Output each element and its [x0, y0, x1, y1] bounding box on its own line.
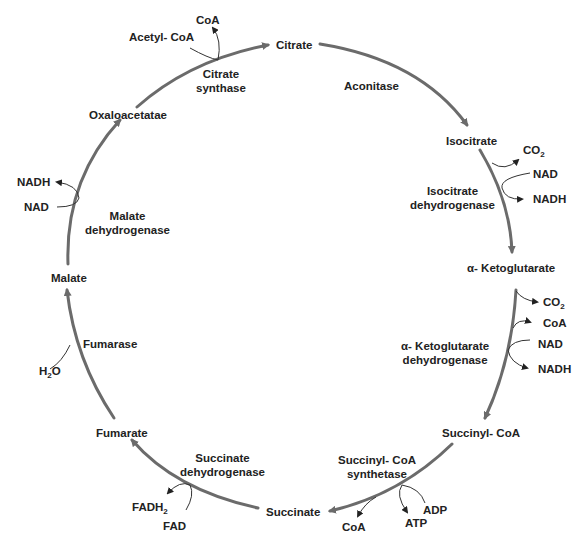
cofactor-adp-in: ADP	[423, 503, 447, 517]
cofactor-h2o-in: H2O	[39, 364, 61, 380]
cofactor-fad-in: FAD	[163, 519, 186, 533]
enzyme-citrate-synthase: Citrate synthase	[196, 67, 246, 95]
metabolite-alpha-ketoglutarate: α- Ketoglutarate	[467, 261, 555, 275]
cofactor-nad-in: NAD	[533, 167, 558, 181]
metabolite-citrate: Citrate	[276, 38, 312, 52]
cofactor-nadh-out-3: NADH	[17, 175, 50, 189]
enzyme-succinate-dehydrogenase: Succinate dehydrogenase	[180, 451, 265, 479]
cofactor-coa-out: CoA	[196, 13, 220, 27]
enzyme-alpha-ketoglutarate-dehydrogenase: α- Ketoglutarate dehydrogenase	[401, 339, 489, 367]
metabolite-fumarate: Fumarate	[96, 426, 148, 440]
cofactor-nadh-out: NADH	[533, 192, 566, 206]
cofactor-nadh-out-2: NADH	[538, 362, 571, 376]
enzyme-fumarase: Fumarase	[83, 337, 137, 351]
metabolite-malate: Malate	[51, 271, 87, 285]
metabolite-succinate: Succinate	[266, 505, 320, 519]
enzyme-aconitase: Aconitase	[344, 79, 399, 93]
arrow-akg-to-succinylcoa	[485, 290, 516, 418]
metabolite-oxaloacetate: Oxaloacetatae	[89, 108, 167, 122]
cofactor-nad-in-2: NAD	[538, 337, 563, 351]
cofactor-nad-in-3: NAD	[24, 200, 49, 214]
cofactor-co2-out: CO2	[523, 143, 545, 159]
cofactor-fadh2-out: FADH2	[132, 500, 168, 516]
cofactor-acetyl-coa-in: Acetyl- CoA	[129, 30, 194, 44]
cofactor-atp-out: ATP	[405, 516, 427, 530]
metabolite-succinyl-coa: Succinyl- CoA	[442, 426, 520, 440]
arrow-malate-to-oxaloacetate	[68, 120, 120, 264]
cofactor-co2-out-2: CO2	[543, 295, 565, 311]
arrow-fumarate-to-malate	[67, 290, 114, 418]
enzyme-succinyl-coa-synthetase: Succinyl- CoA synthetase	[338, 453, 416, 481]
cofactor-coa-out-2: CoA	[543, 316, 567, 330]
cofactor-coa-out-3: CoA	[342, 520, 366, 534]
enzyme-isocitrate-dehydrogenase: Isocitrate dehydrogenase	[410, 184, 495, 212]
metabolite-isocitrate: Isocitrate	[446, 134, 497, 148]
citric-acid-cycle-diagram: Citrate Isocitrate α- Ketoglutarate Succ…	[0, 0, 586, 544]
enzyme-malate-dehydrogenase: Malate dehydrogenase	[85, 209, 170, 237]
